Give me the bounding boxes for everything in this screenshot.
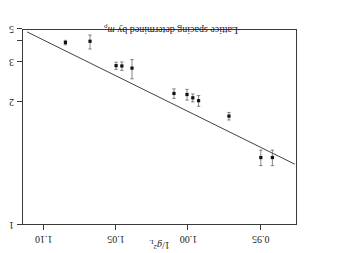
fit-line [27,32,295,164]
figure-root: 0.951.001.051.10 1235 1/g2L 1/a (GeV) La… [0,0,337,253]
annotation-text: Lattice spacing determined by [115,25,238,36]
y-axis-tick [17,102,22,103]
x-axis-title-superscript: 2 [154,243,158,251]
x-axis-tick [260,225,261,230]
x-axis-title-prefix: 1/ [162,240,170,251]
x-axis-tick [187,225,188,230]
x-axis-tick [115,225,116,230]
x-axis-title-subscript: L [149,238,153,246]
x-axis-tick-label: 0.95 [252,234,270,245]
data-point [259,156,262,159]
data-point [197,99,200,102]
annotation-symbol-subscript: ρ [104,23,108,31]
data-point [271,156,274,159]
x-axis-tick-label: 1.10 [35,234,53,245]
x-axis-tick [43,225,44,230]
x-axis-tick-label: 1.05 [107,234,125,245]
errorbar-group [64,35,274,166]
x-axis-tick-label: 1.00 [180,234,198,245]
plot-annotation: Lattice spacing determined by mρ [104,23,238,36]
x-axis-title-symbol: g [157,240,162,251]
data-point [120,64,123,67]
y-axis-tick [17,224,22,225]
y-axis-tick-label: 3 [9,56,14,67]
y-axis-tick-label: 2 [9,97,14,108]
x-axis-title: 1/g2L [149,238,170,251]
data-point [191,96,194,99]
annotation-symbol: m [108,25,115,36]
y-axis-tick-label: 1 [9,220,14,231]
y-axis-tick [17,61,22,62]
data-point [130,67,133,70]
data-point-group [64,40,274,159]
y-axis-tick [17,28,22,29]
y-axis-tick [17,40,22,41]
data-point [88,40,91,43]
data-point [64,41,67,44]
data-point [227,115,230,118]
data-point [185,93,188,96]
data-point [114,64,117,67]
fit-line-segment [27,32,295,164]
y-axis-tick-label: 5 [9,24,14,35]
data-point [172,92,175,95]
plot-canvas [22,29,297,225]
